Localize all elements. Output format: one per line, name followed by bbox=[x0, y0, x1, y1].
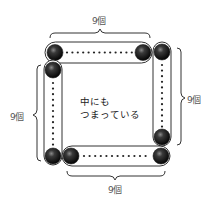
ball-icon bbox=[154, 129, 170, 145]
left-brace-icon bbox=[33, 65, 41, 161]
bottom-count-label: 9個 bbox=[108, 183, 122, 196]
bottom-row-group bbox=[62, 146, 170, 166]
ball-icon bbox=[154, 44, 170, 60]
right-count-label: 9個 bbox=[187, 93, 201, 106]
left-column-group bbox=[44, 60, 62, 165]
top-row-group bbox=[45, 42, 152, 63]
top-count-label: 9個 bbox=[92, 14, 106, 27]
left-count-label: 9個 bbox=[10, 110, 24, 123]
ball-icon bbox=[47, 45, 63, 61]
ball-square-diagram: 9個 9個 9個 9個 中にも つまっている bbox=[0, 0, 214, 210]
ball-icon bbox=[45, 148, 61, 164]
ball-icon bbox=[135, 45, 151, 61]
top-brace-icon bbox=[50, 29, 150, 38]
bottom-brace-icon bbox=[67, 171, 165, 180]
right-column-group bbox=[153, 42, 171, 146]
ball-icon bbox=[153, 148, 169, 164]
right-brace-icon bbox=[177, 48, 185, 145]
center-note-line2: つまっている bbox=[80, 108, 140, 121]
center-note-line1: 中にも bbox=[80, 95, 140, 108]
center-note: 中にも つまっている bbox=[80, 95, 140, 121]
ball-icon bbox=[45, 62, 61, 78]
ball-icon bbox=[63, 148, 79, 164]
